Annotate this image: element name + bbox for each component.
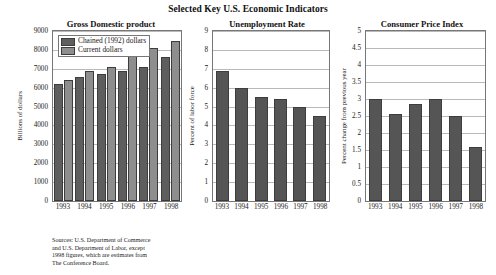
y-tick-label: 3000 [34,140,48,148]
x-tick-label: 1996 [117,203,139,215]
x-tick-label: 1995 [95,203,117,215]
bar-group [406,31,426,201]
chart-body-gdp: Billions of dollars 01000200030004000500… [14,30,184,212]
y-axis-ticks-cpi: 00.511.522.533.544.55 [337,30,363,202]
chart-panel-unemployment: Unemployment Rate Percent of labor force… [186,18,334,212]
legend-label-current: Current dollars [78,46,123,55]
bar-group [366,31,386,201]
y-tick-label: 1000 [34,178,48,186]
x-tick-label: 1994 [232,203,252,215]
bar-group [271,31,290,201]
source-note-line-4: The Conference Board. [52,260,192,268]
y-tick-label: 9000 [34,27,48,35]
legend-gdp: Chained (1992) dollars Current dollars [58,35,150,57]
y-tick-label: 3.5 [352,78,361,86]
x-tick-label: 1998 [310,203,330,215]
x-tick-label: 1995 [405,203,425,215]
bar [149,48,158,201]
chart-panel-cpi: Consumer Price Index Percent change from… [338,18,490,212]
y-tick-label: 8 [204,46,208,54]
y-tick-label: 2000 [34,159,48,167]
bar-group [445,31,465,201]
bar [85,71,94,201]
bar [97,74,106,201]
bar [54,84,63,201]
bar [216,71,229,201]
y-tick-label: 4 [204,121,208,129]
y-tick-label: 4 [357,61,361,69]
legend-swatch-chained-icon [61,38,75,46]
plot-area-cpi [365,30,486,202]
bar [171,41,180,201]
source-note-line-1: Sources: U.S. Department of Commerce [52,237,192,245]
legend-swatch-current-icon [61,47,75,55]
bar [274,99,287,201]
y-tick-label: 0 [44,197,48,205]
bar-group [160,31,181,201]
bar-group [213,31,232,201]
chart-body-cpi: Percent change from previous year 00.511… [338,30,490,212]
source-note-line-3: 1998 figures, which are estimates from [52,252,192,260]
bar-group [310,31,329,201]
bar-group [386,31,406,201]
x-tick-label: 1995 [251,203,271,215]
y-tick-label: 2 [204,159,208,167]
source-note: Sources: U.S. Department of Commerce and… [52,237,192,267]
x-axis-ticks-cpi: 199319941995199619971998 [365,203,486,215]
plot-area-unemployment [212,30,330,202]
y-tick-label: 5 [204,103,208,111]
x-tick-label: 1997 [291,203,311,215]
bar [369,99,382,201]
chart-body-unemployment: Percent of labor force 0123456789 199319… [186,30,334,212]
x-tick-label: 1994 [385,203,405,215]
y-tick-label: 7 [204,65,208,73]
y-tick-label: 0 [204,197,208,205]
y-tick-label: 6000 [34,84,48,92]
y-tick-label: 5000 [34,103,48,111]
y-tick-label: 9 [204,27,208,35]
y-axis-ticks-unemployment: 0123456789 [184,30,210,202]
x-tick-label: 1994 [74,203,96,215]
x-tick-label: 1997 [446,203,466,215]
y-tick-label: 3 [204,140,208,148]
bar [128,56,137,201]
y-tick-label: 2.5 [352,112,361,120]
bar [107,67,116,201]
bar [313,116,326,201]
bar-group [252,31,271,201]
y-tick-label: 2 [357,129,361,137]
x-tick-label: 1993 [52,203,74,215]
bar-group [425,31,445,201]
bar [429,99,442,201]
page-title: Selected Key U.S. Economic Indicators [0,4,496,14]
bar [75,77,84,201]
bar [64,80,73,201]
x-tick-label: 1996 [426,203,446,215]
y-tick-label: 4.5 [352,44,361,52]
bar-group [232,31,251,201]
y-tick-label: 1 [357,163,361,171]
x-tick-label: 1998 [160,203,182,215]
bar-group [290,31,309,201]
bar [255,97,268,201]
y-tick-label: 6 [204,84,208,92]
bar [118,71,127,201]
x-tick-label: 1996 [271,203,291,215]
source-note-line-2: and U.S. Department of Labor, except [52,245,192,253]
bar-series-container [213,31,329,201]
y-tick-label: 8000 [34,46,48,54]
bar [469,147,482,201]
bar [449,116,462,201]
y-tick-label: 0 [357,197,361,205]
bar-series-container [366,31,485,201]
y-tick-label: 4000 [34,121,48,129]
bar-group [465,31,485,201]
bar [235,88,248,201]
bar [409,104,422,201]
y-tick-label: 5 [357,27,361,35]
x-tick-label: 1993 [365,203,385,215]
y-tick-label: 1 [204,178,208,186]
bar [293,107,306,201]
bar [389,114,402,201]
y-tick-label: 3 [357,95,361,103]
